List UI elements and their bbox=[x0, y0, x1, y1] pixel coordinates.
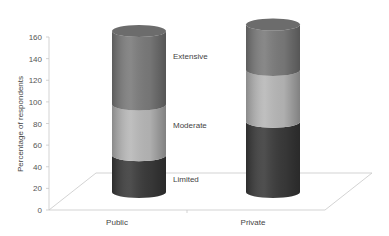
bar-segment-moderate bbox=[112, 105, 166, 162]
y-axis-title: Percentage of respondents bbox=[16, 76, 25, 172]
chart-canvas: 020406080100120140160 Percentage of resp… bbox=[0, 0, 389, 236]
bars-group bbox=[112, 19, 300, 198]
bar-segment-extensive bbox=[112, 31, 166, 110]
y-tick-label: 120 bbox=[29, 76, 43, 85]
segment-label-limited: Limited bbox=[173, 175, 199, 184]
y-tick-label: 0 bbox=[38, 206, 43, 215]
y-axis: 020406080100120140160 bbox=[29, 33, 49, 215]
segment-labels: LimitedModerateExtensive bbox=[173, 52, 208, 184]
x-category-label-public: Public bbox=[106, 218, 128, 227]
stacked-cylinder-chart: 020406080100120140160 Percentage of resp… bbox=[0, 0, 389, 236]
bar-segment-limited bbox=[112, 155, 166, 198]
category-labels: PublicPrivate bbox=[106, 218, 266, 227]
y-tick-label: 160 bbox=[29, 33, 43, 42]
y-tick-label: 60 bbox=[33, 141, 42, 150]
bar-public bbox=[112, 25, 166, 198]
y-tick-label: 80 bbox=[33, 120, 42, 129]
x-category-label-private: Private bbox=[241, 218, 266, 227]
segment-label-moderate: Moderate bbox=[173, 121, 207, 130]
bar-segment-extensive bbox=[246, 25, 300, 76]
bar-segment-limited bbox=[246, 122, 300, 198]
bar-private bbox=[246, 19, 300, 198]
y-tick-label: 100 bbox=[29, 98, 43, 107]
segment-label-extensive: Extensive bbox=[173, 52, 208, 61]
y-tick-label: 140 bbox=[29, 55, 43, 64]
y-tick-label: 20 bbox=[33, 184, 42, 193]
y-tick-label: 40 bbox=[33, 163, 42, 172]
chart-floor bbox=[49, 173, 372, 213]
bar-segment-moderate bbox=[246, 70, 300, 128]
